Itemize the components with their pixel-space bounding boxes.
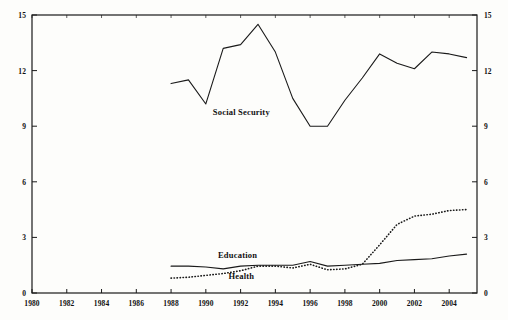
y-axis-right-label-0: 0 (484, 289, 488, 298)
y-axis-left-label-12: 12 (18, 66, 26, 75)
x-axis-label-1996: 1996 (302, 299, 317, 308)
x-axis-label-2000: 2000 (372, 299, 387, 308)
y-axis-right-label-3: 3 (484, 233, 488, 242)
y-axis-left-label-15: 15 (18, 11, 26, 20)
x-axis-label-1998: 1998 (337, 299, 352, 308)
y-axis-right-label-15: 15 (484, 11, 492, 20)
y-axis-left-label-3: 3 (22, 233, 26, 242)
x-axis-label-1990: 1990 (198, 299, 213, 308)
y-axis-left-label-0: 0 (22, 289, 26, 298)
series-label-health: Health (228, 271, 254, 281)
x-axis-label-1988: 1988 (163, 299, 178, 308)
data-series-lines (171, 24, 467, 278)
x-axis-label-1986: 1986 (129, 299, 144, 308)
y-axis-right-label-6: 6 (484, 177, 488, 186)
series-label-education: Education (218, 250, 257, 260)
x-axis-label-1994: 1994 (268, 299, 283, 308)
series-label-social-security: Social Security (213, 107, 270, 117)
x-axis-label-2004: 2004 (441, 299, 456, 308)
x-axis-label-1984: 1984 (94, 299, 109, 308)
y-axis-left-label-9: 9 (22, 122, 26, 131)
y-axis-right-label-9: 9 (484, 122, 488, 131)
x-axis-label-1982: 1982 (59, 299, 74, 308)
y-axis-right-label-12: 12 (484, 66, 492, 75)
x-axis-label-1980: 1980 (24, 299, 39, 308)
x-axis-label-2002: 2002 (407, 299, 422, 308)
x-axis-label-1992: 1992 (233, 299, 248, 308)
y-axis-left-label-6: 6 (22, 177, 26, 186)
chart-container: 1980198219841986198819901992199419961998… (0, 0, 508, 320)
